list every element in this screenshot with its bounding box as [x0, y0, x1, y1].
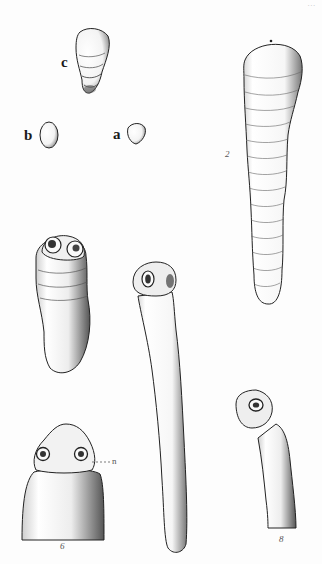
figure-6: [22, 424, 110, 540]
figure-long-neck: [133, 262, 187, 552]
figure-label-6: 6: [60, 541, 65, 551]
illustration-plate: ...: [0, 0, 322, 564]
figure-2: [244, 40, 302, 304]
figures-drawing: [0, 0, 322, 564]
figure-a: [128, 124, 146, 145]
figure-label-b: b: [24, 127, 32, 144]
annotation-n: n: [112, 456, 117, 466]
figure-label-2: 2: [225, 149, 230, 159]
figure-b: [40, 122, 58, 148]
figure-label-c: c: [61, 54, 68, 71]
figure-label-8: 8: [279, 534, 284, 544]
figure-8: [236, 390, 296, 528]
figure-scolex-short: [36, 236, 90, 373]
figure-label-a: a: [113, 126, 121, 143]
figure-c: [76, 29, 109, 94]
